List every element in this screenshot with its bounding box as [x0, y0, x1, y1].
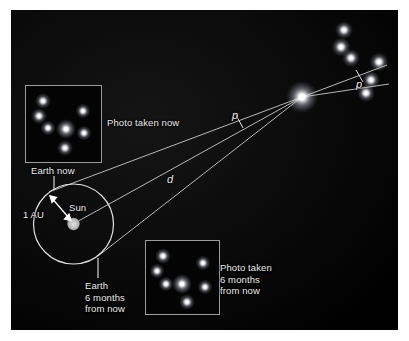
- label-earth-later-line3: from now: [85, 303, 125, 314]
- label-earth-later-line1: Earth: [85, 280, 108, 291]
- photo-now-inset: [25, 85, 102, 163]
- label-earth-later: Earth 6 months from now: [85, 280, 125, 315]
- label-parallax-inner: p: [232, 110, 238, 122]
- label-parallax-outer: p: [356, 79, 362, 91]
- label-one-au: 1 AU: [23, 209, 44, 221]
- sky-background: Photo taken now Photo taken 6 months fro…: [11, 10, 398, 330]
- label-sun: Sun: [69, 202, 86, 214]
- photo-later-starfield: [146, 241, 219, 314]
- label-photo-later-line2: 6 months: [220, 274, 260, 285]
- label-photo-taken-now: Photo taken now: [107, 117, 179, 129]
- label-photo-later-line1: Photo taken: [220, 262, 272, 273]
- photo-now-starfield: [26, 86, 101, 162]
- label-photo-taken-later: Photo taken 6 months from now: [220, 262, 272, 297]
- photo-later-inset: [145, 240, 220, 315]
- label-earth-later-line2: 6 months: [85, 292, 125, 303]
- label-photo-later-line3: from now: [220, 285, 260, 296]
- parallax-diagram: Photo taken now Photo taken 6 months fro…: [0, 0, 409, 341]
- label-distance-d: d: [167, 174, 173, 186]
- label-earth-now: Earth now: [31, 165, 75, 177]
